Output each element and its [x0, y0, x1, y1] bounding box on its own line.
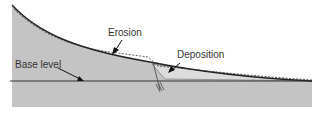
deposition-label: Deposition — [177, 49, 224, 60]
ground-profile — [12, 5, 312, 107]
erosion-label: Erosion — [108, 27, 142, 38]
erosion-arrow-icon — [112, 40, 122, 55]
base-level-label: Base level — [15, 59, 61, 70]
diagram-canvas: Erosion Deposition Base level — [0, 0, 318, 114]
